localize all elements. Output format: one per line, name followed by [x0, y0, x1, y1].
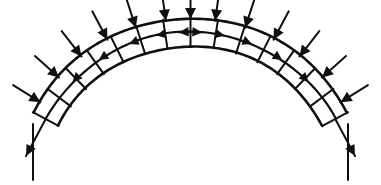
arch-diagram-figure: Masonry arch with radial loading and lin… — [0, 0, 381, 185]
arch-diagram-canvas — [0, 0, 381, 185]
voussoir-joint-lines — [33, 18, 348, 126]
voussoir-joint — [277, 51, 294, 75]
load-arrow-head — [341, 92, 353, 102]
voussoir-joint — [87, 51, 104, 75]
voussoir-joint — [310, 89, 333, 106]
load-arrow-head — [28, 92, 40, 102]
radial-load-arrow-group — [13, 0, 368, 102]
support-column-group — [33, 124, 348, 180]
load-arrow-head — [299, 44, 310, 56]
voussoir-joint — [111, 36, 124, 62]
reaction-arrow-group — [26, 119, 355, 156]
load-arrow-head — [127, 16, 137, 28]
voussoir-joint — [48, 89, 71, 106]
load-arrow-head — [70, 44, 81, 56]
intrados-curve — [58, 47, 322, 126]
load-arrow-head — [159, 9, 170, 21]
load-arrow-head — [185, 8, 196, 19]
voussoir-joint — [257, 36, 270, 62]
load-arrow-head — [243, 16, 253, 28]
